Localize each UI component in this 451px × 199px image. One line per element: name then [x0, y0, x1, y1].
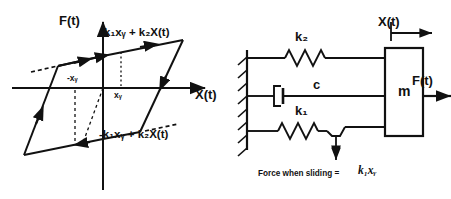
spring-k1 [247, 123, 327, 139]
spring-k2-label: k₂ [295, 30, 308, 43]
sliding-force-caption-text: Force when sliding = [258, 170, 339, 178]
sliding-force-caption-math: k₁xᵧ [358, 165, 376, 177]
wall-hatching [238, 57, 247, 156]
oscillator-schematic-graphics [0, 0, 451, 199]
mechanics-figure: F(t) X(t) k₁xᵧ + k₂X(t) -k₁xᵧ + k₂X(t) -… [0, 0, 451, 199]
fixed-wall [238, 50, 247, 156]
spring-k2 [247, 50, 385, 66]
applied-force-label: F(t) [412, 74, 433, 87]
mass-label: m [398, 84, 410, 98]
spring-k1-label: k₁ [295, 104, 308, 117]
damper-c-label: c [313, 78, 320, 91]
displacement-label: X(t) [378, 15, 400, 28]
